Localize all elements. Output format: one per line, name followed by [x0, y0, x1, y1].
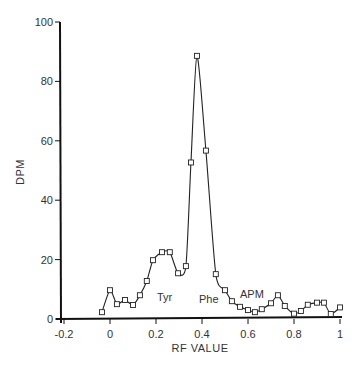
- data-point-marker: [223, 288, 228, 293]
- data-point-marker: [328, 311, 333, 316]
- data-point-marker: [144, 278, 149, 283]
- data-point-marker: [259, 307, 264, 312]
- annotation-phe: Phe: [199, 293, 219, 305]
- y-tick-label: 80: [41, 75, 53, 87]
- data-point-marker: [183, 264, 188, 269]
- data-point-marker: [122, 297, 127, 302]
- annotation-tyr: Tyr: [157, 291, 173, 303]
- data-point-marker: [167, 250, 172, 255]
- x-tick-label: 0: [107, 328, 113, 340]
- data-point-marker: [114, 302, 119, 307]
- data-point-marker: [99, 310, 104, 315]
- data-point-marker: [305, 302, 310, 307]
- series-line: [102, 56, 340, 314]
- data-point-marker: [275, 293, 280, 298]
- data-point-marker: [237, 304, 242, 309]
- x-tick-label: 0.2: [148, 328, 163, 340]
- data-point-marker: [282, 303, 287, 308]
- data-point-marker: [298, 308, 303, 313]
- x-tick-label: 1: [337, 328, 343, 340]
- axes: 020406080100-0.200.20.40.60.81: [35, 16, 343, 340]
- x-tick-label: 0.8: [286, 328, 301, 340]
- data-point-marker: [213, 272, 218, 277]
- y-axis-title: DPM: [14, 159, 26, 185]
- data-point-marker: [315, 300, 320, 305]
- data-point-marker: [151, 258, 156, 263]
- data-point-marker: [269, 301, 274, 306]
- data-point-marker: [321, 300, 326, 305]
- y-axis-line: [60, 22, 61, 323]
- data-point-marker: [108, 288, 113, 293]
- x-axis-line: [56, 317, 342, 319]
- data-point-marker: [292, 311, 297, 316]
- x-tick-label: -0.2: [55, 328, 74, 340]
- data-point-marker: [194, 53, 199, 58]
- y-tick-label: 60: [41, 135, 53, 147]
- data-point-marker: [246, 308, 251, 313]
- x-axis-title: RF VALUE: [172, 342, 229, 354]
- data-series: [99, 53, 342, 316]
- annotation-apm: APM: [240, 288, 264, 300]
- data-point-marker: [131, 303, 136, 308]
- data-point-marker: [176, 271, 181, 276]
- data-point-marker: [203, 148, 208, 153]
- x-tick-label: 0.6: [240, 328, 255, 340]
- x-tick-label: 0.4: [194, 328, 209, 340]
- chart: 020406080100-0.200.20.40.60.81 RF VALUE …: [0, 0, 359, 367]
- y-tick-label: 0: [47, 313, 53, 325]
- y-tick-label: 100: [35, 16, 53, 28]
- y-tick-label: 20: [41, 254, 53, 266]
- data-point-marker: [338, 305, 343, 310]
- data-point-marker: [137, 293, 142, 298]
- data-point-marker: [159, 250, 164, 255]
- data-point-marker: [229, 299, 234, 304]
- data-point-marker: [188, 160, 193, 165]
- data-point-marker: [252, 310, 257, 315]
- y-tick-label: 40: [41, 194, 53, 206]
